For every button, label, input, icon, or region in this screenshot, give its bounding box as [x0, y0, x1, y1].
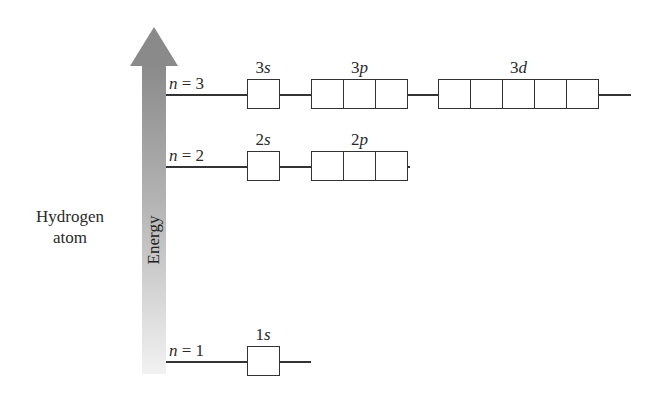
- orbital-box-2s: [247, 151, 280, 181]
- orbital-box-2p: [311, 151, 408, 181]
- energy-axis-label: Energy: [144, 216, 164, 265]
- orbital-cell: [312, 80, 344, 108]
- orbital-box-3p: [311, 79, 408, 109]
- orbital-cell: [376, 80, 407, 108]
- orbital-cell: [344, 152, 376, 180]
- orbital-cell: [535, 80, 567, 108]
- orbital-cell: [471, 80, 503, 108]
- orbital-label-2s: 2s: [247, 131, 279, 148]
- orbital-cell: [344, 80, 376, 108]
- orbital-cell: [567, 80, 598, 108]
- atom-label: Hydrogen atom: [20, 206, 120, 248]
- orbital-label-3d: 3d: [438, 59, 599, 76]
- orbital-label-2p: 2p: [311, 131, 408, 148]
- orbital-cell: [248, 152, 279, 180]
- level-label-n2: n = 2: [169, 147, 204, 164]
- orbital-label-3p: 3p: [311, 59, 408, 76]
- orbital-box-3d: [438, 79, 599, 109]
- orbital-cell: [376, 152, 407, 180]
- orbital-cell: [248, 80, 279, 108]
- orbital-cell: [312, 152, 344, 180]
- orbital-label-3s: 3s: [247, 59, 279, 76]
- atom-label-line1: Hydrogen: [20, 206, 120, 227]
- orbital-cell: [439, 80, 471, 108]
- orbital-box-1s: [247, 346, 280, 376]
- energy-level-diagram: Energy Hydrogen atom n = 3 3s 3p 3d: [0, 0, 656, 395]
- level-label-n3: n = 3: [169, 75, 204, 92]
- atom-label-line2: atom: [20, 227, 120, 248]
- level-label-n1: n = 1: [169, 342, 204, 359]
- orbital-label-1s: 1s: [247, 326, 279, 343]
- orbital-cell: [503, 80, 535, 108]
- orbital-box-3s: [247, 79, 280, 109]
- orbital-cell: [248, 347, 279, 375]
- level-line-n1: [166, 361, 311, 363]
